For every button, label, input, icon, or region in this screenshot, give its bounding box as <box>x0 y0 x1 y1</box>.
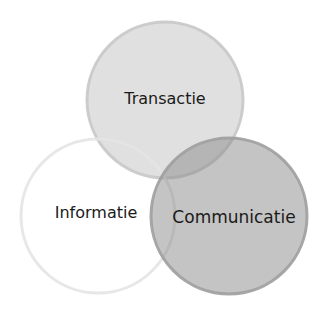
label-informatie: Informatie <box>55 203 138 222</box>
label-communicatie: Communicatie <box>172 207 295 227</box>
label-transactie: Transactie <box>123 89 205 108</box>
circles-group <box>21 22 307 294</box>
venn-diagram: Transactie Informatie Communicatie <box>0 0 326 315</box>
